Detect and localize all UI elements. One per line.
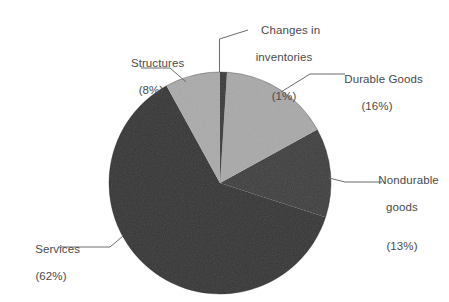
pie-label-services-percent: (62%) — [6, 270, 96, 283]
pie-label-durable-goods-percent: (16%) — [316, 100, 438, 113]
pie-label-changes-in-inventories-line1: Changes in — [261, 24, 320, 36]
pie-label-durable-goods-line1: Durable Goods — [344, 73, 423, 85]
pie-label-services-line1: Services — [35, 243, 80, 255]
pie-label-structures: Structures (8%) — [104, 44, 198, 123]
pie-label-structures-percent: (8%) — [104, 84, 198, 97]
pie-label-structures-line1: Structures — [131, 57, 184, 69]
pie-label-durable-goods: Durable Goods (16%) — [316, 60, 438, 139]
pie-label-nondurable-goods-line1: Nondurable — [378, 174, 438, 186]
pie-chart: Changes in inventories (1%) Durable Good… — [0, 0, 449, 302]
pie-label-nondurable-goods-line2: goods — [358, 201, 446, 214]
pie-label-services: Services (62%) — [6, 230, 96, 302]
pie-label-nondurable-goods-percent: (13%) — [358, 240, 446, 253]
pie-label-nondurable-goods: Nondurable goods (13%) — [358, 161, 446, 280]
